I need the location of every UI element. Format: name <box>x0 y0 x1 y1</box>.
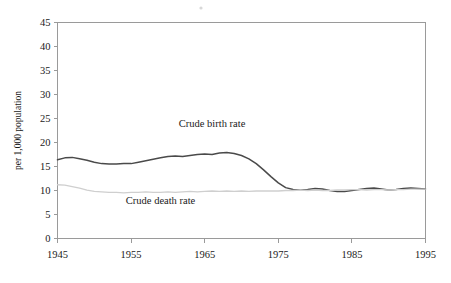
scan-artifact-speck <box>199 6 202 9</box>
x-tick-label: 1955 <box>121 249 142 260</box>
y-tick-label: 5 <box>45 209 50 220</box>
x-tick-label: 1965 <box>194 249 215 260</box>
y-tick-label: 30 <box>40 89 51 100</box>
series-annotations: Crude birth rateCrude death rate <box>126 118 246 206</box>
y-tick-label: 0 <box>45 233 50 244</box>
y-tick-label: 45 <box>40 17 51 28</box>
series-label-crude-death-rate: Crude death rate <box>126 195 196 206</box>
series-line-crude-birth-rate <box>58 153 426 192</box>
chart-container: 051015202530354045 194519551965197519851… <box>0 0 451 283</box>
y-axis-title: per 1,000 population <box>13 91 23 170</box>
line-chart: 051015202530354045 194519551965197519851… <box>0 0 451 283</box>
y-tick-label: 15 <box>40 161 51 172</box>
axis-frame <box>58 23 426 239</box>
y-tick-label: 20 <box>40 137 51 148</box>
x-axis-ticks: 194519551965197519851995 <box>47 239 436 260</box>
y-tick-label: 10 <box>40 185 51 196</box>
y-tick-label: 25 <box>40 113 51 124</box>
x-tick-label: 1985 <box>341 249 362 260</box>
plot-frame <box>58 23 426 239</box>
series-label-crude-birth-rate: Crude birth rate <box>179 118 246 129</box>
y-tick-label: 35 <box>40 65 51 76</box>
y-axis-ticks: 051015202530354045 <box>40 17 58 244</box>
x-tick-label: 1995 <box>415 249 436 260</box>
x-tick-label: 1945 <box>47 249 68 260</box>
x-tick-label: 1975 <box>268 249 289 260</box>
data-series-group <box>58 153 426 193</box>
y-tick-label: 40 <box>40 41 51 52</box>
